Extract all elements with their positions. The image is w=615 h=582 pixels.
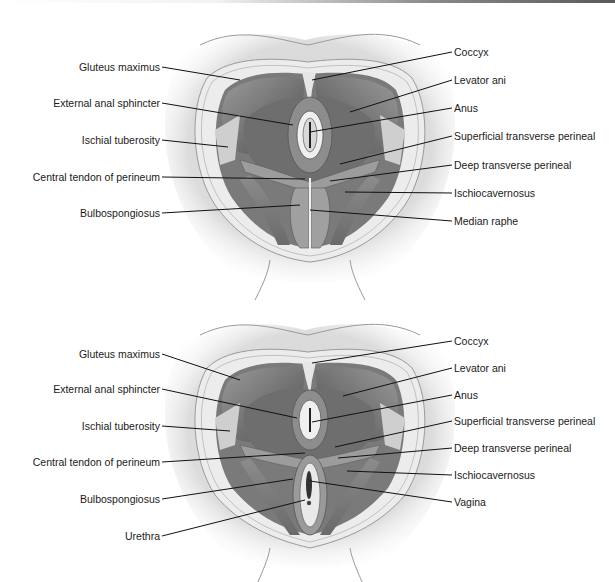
label-male-gluteus-maximus: Gluteus maximus bbox=[79, 61, 160, 73]
label-female-ischial-tuberosity: Ischial tuberosity bbox=[82, 420, 160, 432]
label-female-anus: Anus bbox=[454, 389, 478, 401]
label-female-vagina: Vagina bbox=[454, 496, 486, 508]
label-male-external-anal-sphincter: External anal sphincter bbox=[53, 97, 160, 109]
label-male-ischiocavernosus: Ischiocavernosus bbox=[454, 187, 535, 199]
label-female-urethra: Urethra bbox=[125, 530, 160, 542]
label-female-gluteus-maximus: Gluteus maximus bbox=[79, 348, 160, 360]
label-female-coccyx: Coccyx bbox=[454, 335, 488, 347]
label-female-external-anal-sphincter: External anal sphincter bbox=[53, 383, 160, 395]
label-male-superficial-transverse-perineal: Superficial transverse perineal bbox=[454, 130, 595, 142]
label-female-central-tendon-of-perineum: Central tendon of perineum bbox=[33, 456, 160, 468]
label-male-median-raphe: Median raphe bbox=[454, 215, 518, 227]
label-male-bulbospongiosus: Bulbospongiosus bbox=[80, 207, 160, 219]
label-female-superficial-transverse-perineal: Superficial transverse perineal bbox=[454, 415, 595, 427]
label-female-bulbospongiosus: Bulbospongiosus bbox=[80, 493, 160, 505]
label-female-ischiocavernosus: Ischiocavernosus bbox=[454, 469, 535, 481]
label-male-levator-ani: Levator ani bbox=[454, 74, 506, 86]
label-male-central-tendon-of-perineum: Central tendon of perineum bbox=[33, 171, 160, 183]
label-male-ischial-tuberosity: Ischial tuberosity bbox=[82, 134, 160, 146]
label-male-coccyx: Coccyx bbox=[454, 46, 488, 58]
label-male-anus: Anus bbox=[454, 102, 478, 114]
male-perineum-art bbox=[165, 34, 455, 300]
label-female-levator-ani: Levator ani bbox=[454, 362, 506, 374]
female-perineum-art bbox=[165, 324, 455, 582]
label-male-deep-transverse-perineal: Deep transverse perineal bbox=[454, 159, 571, 171]
label-female-deep-transverse-perineal: Deep transverse perineal bbox=[454, 442, 571, 454]
